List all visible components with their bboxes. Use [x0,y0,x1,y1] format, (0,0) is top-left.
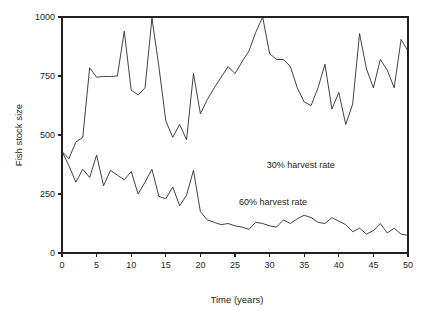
series-line [62,152,408,236]
y-tick-label: 500 [40,130,55,140]
x-tick-label: 20 [195,260,205,270]
x-tick-label: 30 [265,260,275,270]
axis-box [62,17,408,253]
y-tick-label: 250 [40,189,55,199]
x-tick-label: 35 [299,260,309,270]
y-tick-label: 750 [40,71,55,81]
x-tick-label: 40 [334,260,344,270]
x-tick-label: 10 [126,260,136,270]
y-tick-label: 1000 [35,12,55,22]
axis-frame [62,17,408,253]
fish-stock-chart-figure: 02505007501000 05101520253035404550 30% … [0,0,432,311]
series-annotation-label: 60% harvest rate [239,197,307,207]
series-annotation-label: 30% harvest rate [267,160,335,170]
series-line [62,17,408,159]
x-tick-label: 45 [368,260,378,270]
y-axis-title: Fish stock size [13,104,24,166]
x-tick-label: 50 [403,260,413,270]
series-annotations: 30% harvest rate60% harvest rate [239,160,335,207]
chart-plot-area: 02505007501000 05101520253035404550 30% … [0,0,432,311]
x-tick-label: 25 [230,260,240,270]
x-axis-tick-labels: 05101520253035404550 [59,260,413,270]
x-tick-label: 15 [161,260,171,270]
x-tick-label: 5 [94,260,99,270]
y-axis-tick-labels: 02505007501000 [35,12,55,258]
data-series-group [62,17,408,235]
y-tick-label: 0 [50,248,55,258]
x-axis-title: Time (years) [211,294,264,305]
x-tick-label: 0 [59,260,64,270]
axis-tick-marks [58,17,408,257]
